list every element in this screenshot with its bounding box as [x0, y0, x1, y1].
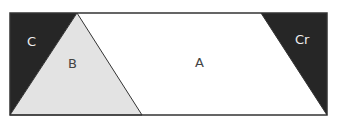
label-c: C: [27, 34, 36, 49]
parallelogram-decomposition-diagram: C B A Cr: [0, 0, 337, 122]
label-a: A: [195, 55, 204, 70]
label-cr: Cr: [295, 32, 310, 47]
label-b: B: [68, 56, 77, 71]
